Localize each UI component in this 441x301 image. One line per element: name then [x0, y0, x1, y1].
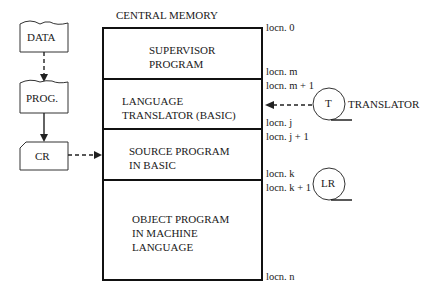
data-card-label: DATA — [27, 31, 55, 44]
segment-line: TRANSLATOR (BASIC) — [122, 108, 236, 122]
locn-label: locn. m — [266, 66, 298, 78]
translator-reel-label: T — [325, 97, 332, 109]
segment-line: IN MACHINE — [132, 226, 229, 240]
prog-card-label: PROG. — [26, 92, 58, 105]
locn-label: locn. j + 1 — [266, 131, 309, 143]
translator-label: TRANSLATOR — [348, 98, 419, 110]
segment-source: SOURCE PROGRAM IN BASIC — [129, 144, 230, 172]
locn-label: locn. 0 — [266, 22, 295, 34]
segment-divider — [102, 78, 263, 80]
segment-line: IN BASIC — [129, 158, 230, 172]
segment-divider — [102, 128, 263, 130]
locn-label: locn. j — [266, 117, 292, 129]
segment-supervisor: SUPERVISOR PROGRAM — [149, 43, 215, 71]
segment-object: OBJECT PROGRAM IN MACHINE LANGUAGE — [132, 212, 229, 254]
segment-line: PROGRAM — [149, 57, 215, 71]
locn-label: locn. k — [266, 168, 295, 180]
segment-divider — [102, 179, 263, 181]
segment-line: SOURCE PROGRAM — [129, 144, 230, 158]
segment-line: LANGUAGE — [122, 94, 236, 108]
segment-translator: LANGUAGE TRANSLATOR (BASIC) — [122, 94, 236, 122]
locn-label: locn. k + 1 — [266, 182, 311, 194]
card-reader-label: CR — [35, 150, 50, 163]
segment-line: LANGUAGE — [132, 240, 229, 254]
locn-label: locn. m + 1 — [266, 80, 314, 92]
memory-title: CENTRAL MEMORY — [116, 9, 218, 22]
lr-reel-label: LR — [321, 177, 335, 189]
locn-label: locn. n — [266, 271, 295, 283]
segment-line: SUPERVISOR — [149, 43, 215, 57]
segment-line: OBJECT PROGRAM — [132, 212, 229, 226]
